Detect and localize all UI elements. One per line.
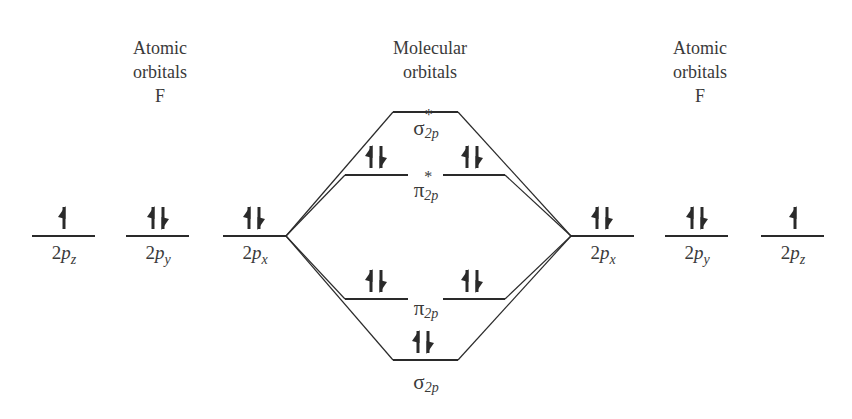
electrons-pi-right <box>461 269 483 293</box>
label-left-2px: 2px <box>242 242 267 268</box>
mo-sub: 2p <box>425 126 439 142</box>
electron-left-2pz <box>58 206 66 229</box>
electrons-pi-star-left <box>365 145 387 169</box>
electrons-right-2py <box>686 206 708 230</box>
label-right-2pz: 2pz <box>781 242 805 268</box>
electrons-pi-star-right <box>461 145 483 169</box>
mo-sup: * <box>425 106 433 124</box>
correlation-lines <box>286 112 571 360</box>
label-p: p <box>600 242 610 263</box>
label-base: 2 <box>590 242 600 263</box>
mo-symbol: σ <box>413 116 424 140</box>
label-sub: x <box>261 252 267 267</box>
mo-symbol: σ <box>413 370 424 394</box>
label-base: 2 <box>145 242 155 263</box>
label-pi-star-2p: π*2p <box>414 178 447 203</box>
label-base: 2 <box>52 242 62 263</box>
label-p: p <box>790 242 800 263</box>
electrons-sigma <box>412 330 434 354</box>
label-sub: y <box>164 252 170 267</box>
label-sigma-2p: σ2p <box>413 370 446 395</box>
electrons-pi-left <box>365 269 387 293</box>
mo-symbol: π <box>414 296 425 320</box>
label-sigma-star-2p: σ*2p <box>413 116 446 141</box>
label-sub: x <box>609 252 615 267</box>
electrons-left-2py <box>147 206 169 230</box>
mo-symbol: π <box>414 178 425 202</box>
label-left-2pz: 2pz <box>52 242 76 268</box>
label-p: p <box>61 242 71 263</box>
mo-sup: * <box>424 168 432 186</box>
electrons-left-2px <box>243 206 265 230</box>
label-base: 2 <box>242 242 252 263</box>
label-sub: z <box>800 252 805 267</box>
label-p: p <box>252 242 262 263</box>
label-p: p <box>694 242 704 263</box>
mo-sub: 2p <box>424 306 438 322</box>
electrons-right-2px <box>591 206 613 230</box>
label-left-2py: 2py <box>145 242 170 268</box>
label-base: 2 <box>781 242 791 263</box>
mo-diagram <box>0 0 852 419</box>
label-right-2px: 2px <box>590 242 615 268</box>
mo-sub: 2p <box>425 380 439 396</box>
label-sub: z <box>71 252 76 267</box>
label-base: 2 <box>684 242 694 263</box>
electron-right-2pz <box>789 206 797 229</box>
label-p: p <box>155 242 165 263</box>
label-sub: y <box>703 252 709 267</box>
label-right-2py: 2py <box>684 242 709 268</box>
label-pi-2p: π2p <box>414 296 447 321</box>
mo-sub: 2p <box>424 188 438 204</box>
